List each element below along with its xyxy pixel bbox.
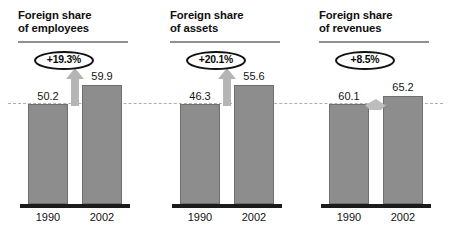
growth-badge-label: +20.1% xyxy=(199,55,233,65)
year-label-1990: 1990 xyxy=(25,211,71,223)
bar-1990 xyxy=(180,104,220,204)
bar-value-2002: 65.2 xyxy=(380,81,426,93)
bar-value-1990: 46.3 xyxy=(177,90,223,102)
bar-value-2002: 55.6 xyxy=(231,70,277,82)
plot-area: 60.1 65.2 1990 2002 xyxy=(301,0,449,236)
bar-value-1990: 60.1 xyxy=(326,90,372,102)
bar-1990 xyxy=(28,104,68,204)
panel-foreign-share-of-employees: Foreign share of employees +19.3% 50.2 5… xyxy=(0,0,150,236)
axis-baseline xyxy=(321,204,431,208)
year-label-2002: 2002 xyxy=(79,211,125,223)
foreign-share-chart: Foreign share of employees +19.3% 50.2 5… xyxy=(0,0,449,236)
plot-area: 46.3 55.6 1990 2002 xyxy=(152,0,302,236)
year-label-1990: 1990 xyxy=(177,211,223,223)
year-label-2002: 2002 xyxy=(380,211,426,223)
year-label-1990: 1990 xyxy=(326,211,372,223)
panel-foreign-share-of-revenues: Foreign share of revenues +8.5% 60.1 65.… xyxy=(301,0,449,236)
year-label-2002: 2002 xyxy=(231,211,277,223)
growth-badge-label: +19.3% xyxy=(47,55,81,65)
panel-foreign-share-of-assets: Foreign share of assets +20.1% 46.3 55.6… xyxy=(152,0,302,236)
growth-badge: +19.3% xyxy=(34,51,94,70)
bar-1990 xyxy=(329,104,369,204)
plot-area: 50.2 59.9 1990 2002 xyxy=(0,0,150,236)
bar-value-2002: 59.9 xyxy=(79,70,125,82)
growth-badge-label: +8.5% xyxy=(351,55,380,65)
bar-2002 xyxy=(234,85,274,204)
axis-baseline xyxy=(172,204,282,208)
axis-baseline xyxy=(20,204,130,208)
bar-value-1990: 50.2 xyxy=(25,90,71,102)
bar-2002 xyxy=(383,96,423,204)
growth-badge: +8.5% xyxy=(335,51,395,70)
bar-2002 xyxy=(82,85,122,204)
growth-badge: +20.1% xyxy=(186,51,246,70)
